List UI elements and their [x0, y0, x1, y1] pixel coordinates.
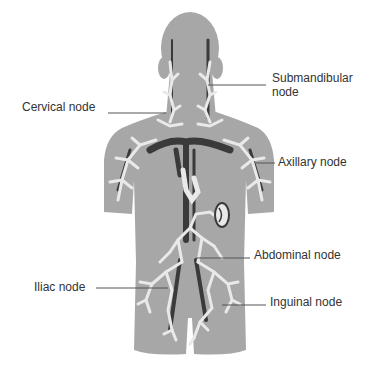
label-inguinal-node: Inguinal node [270, 295, 342, 309]
label-submandibular-line2: node [272, 85, 353, 99]
label-abdominal-node: Abdominal node [254, 248, 341, 262]
body-illustration [0, 0, 382, 375]
lymphatic-diagram: Submandibular node Cervical node Axillar… [0, 0, 382, 375]
label-axillary-node: Axillary node [278, 155, 347, 169]
label-submandibular-line1: Submandibular [272, 71, 353, 85]
spleen-icon [215, 203, 229, 227]
label-iliac-node: Iliac node [34, 280, 85, 294]
label-submandibular-node: Submandibular node [272, 71, 353, 99]
label-cervical-node: Cervical node [22, 100, 95, 114]
